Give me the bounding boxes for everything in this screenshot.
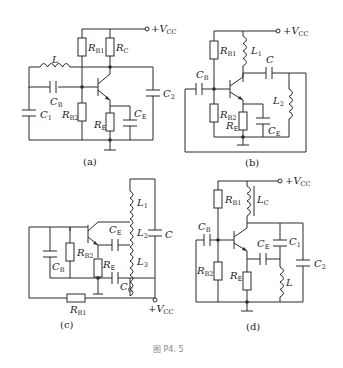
svg-text:RB1: RB1 [219,45,236,58]
svg-text:CE: CE [257,238,270,251]
svg-text:C2: C2 [314,258,326,271]
svg-text:RE: RE [229,270,243,283]
svg-text:(b): (b) [245,157,259,168]
svg-text:C1: C1 [40,109,52,122]
svg-text:RB2: RB2 [196,265,213,278]
svg-text:CB: CB [198,221,211,234]
svg-text:CE: CE [268,125,281,138]
svg-text:C1: C1 [289,236,301,249]
circuit-c: L1 L2 L3 C CE CB RB2 RE CC RB1 +VCC (c) [29,179,174,330]
svg-text:CB: CB [52,261,65,274]
svg-text:(c): (c) [60,319,74,330]
svg-text:+VCC: +VCC [285,175,311,188]
svg-text:C2: C2 [163,88,175,101]
svg-text:CE: CE [109,224,122,237]
circuit-a: +VCC RB1 RC L CB C1 RB2 RE CE C2 (a) [22,23,177,167]
svg-text:RE: RE [102,259,116,272]
svg-text:L: L [51,54,59,65]
svg-text:RB2: RB2 [76,247,93,260]
svg-text:+VCC: +VCC [283,25,309,38]
svg-text:CB: CB [196,69,209,82]
svg-text:CE: CE [134,108,147,121]
svg-text:RC: RC [115,42,129,55]
svg-text:LC: LC [256,194,269,207]
svg-text:L1: L1 [136,197,148,210]
circuit-b: +VCC RB1 L1 C CB L2 RB2 RE CE (b) [185,25,309,168]
svg-text:+VCC: +VCC [151,23,177,36]
svg-text:RB2: RB2 [61,109,78,122]
circuit-figure: +VCC RB1 RC L CB C1 RB2 RE CE C2 (a) [0,0,343,368]
svg-text:L3: L3 [136,256,148,269]
svg-text:(d): (d) [246,321,260,332]
svg-text:L: L [285,277,293,288]
svg-text:L2: L2 [272,95,284,108]
svg-text:C: C [266,54,274,65]
svg-text:C: C [165,229,173,240]
svg-text:L2: L2 [136,227,148,240]
circuit-d: +VCC RB1 LC CB CE C1 C2 RB2 RE L (d) [196,175,326,332]
svg-text:RB1: RB1 [224,194,241,207]
svg-text:RE: RE [225,120,239,133]
svg-text:(a): (a) [83,156,97,167]
svg-text:RB1: RB1 [69,304,86,317]
svg-text:RB1: RB1 [87,42,104,55]
figure-caption: 图 P4. 5 [153,345,184,354]
svg-text:RE: RE [93,119,107,132]
svg-text:CB: CB [50,96,63,109]
svg-text:+VCC: +VCC [148,303,174,316]
svg-text:L1: L1 [250,45,262,58]
